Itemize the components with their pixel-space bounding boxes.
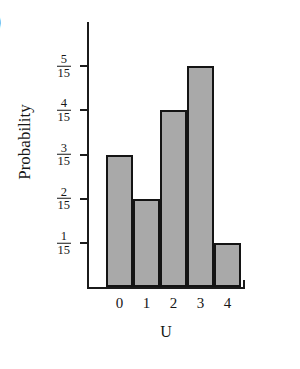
plot-area: 115215315415515 01234 — [87, 22, 245, 289]
x-axis-title: U — [87, 323, 245, 341]
y-axis-tick: 115 — [80, 242, 89, 244]
x-axis-line — [87, 287, 245, 289]
bar — [160, 110, 187, 287]
x-axis-end-tick — [243, 280, 245, 289]
x-axis-tick-label: 1 — [143, 295, 151, 312]
bar — [106, 155, 133, 288]
y-axis-tick-label: 415 — [57, 97, 72, 124]
y-axis-tick-label: 315 — [57, 141, 72, 168]
probability-histogram-figure: ) Probability 115215315415515 01234 U — [0, 0, 300, 369]
y-axis-tick: 215 — [80, 198, 89, 200]
y-axis-tick-label: 515 — [57, 53, 72, 80]
y-axis-title: Probability — [15, 72, 35, 212]
y-axis-tick: 515 — [80, 65, 89, 67]
bar — [187, 66, 214, 287]
x-axis-tick-label: 0 — [116, 295, 124, 312]
corner-part-label: ) — [0, 8, 1, 33]
bar — [133, 199, 160, 287]
y-axis-tick-label: 215 — [57, 185, 72, 212]
x-axis-tick-label: 3 — [197, 295, 205, 312]
y-axis-tick: 415 — [80, 109, 89, 111]
y-axis-tick: 315 — [80, 154, 89, 156]
x-axis-tick-label: 2 — [170, 295, 178, 312]
y-axis-tick-label: 115 — [57, 230, 72, 257]
bar — [214, 243, 241, 287]
x-axis-tick-label: 4 — [224, 295, 232, 312]
y-axis-line — [87, 22, 89, 289]
